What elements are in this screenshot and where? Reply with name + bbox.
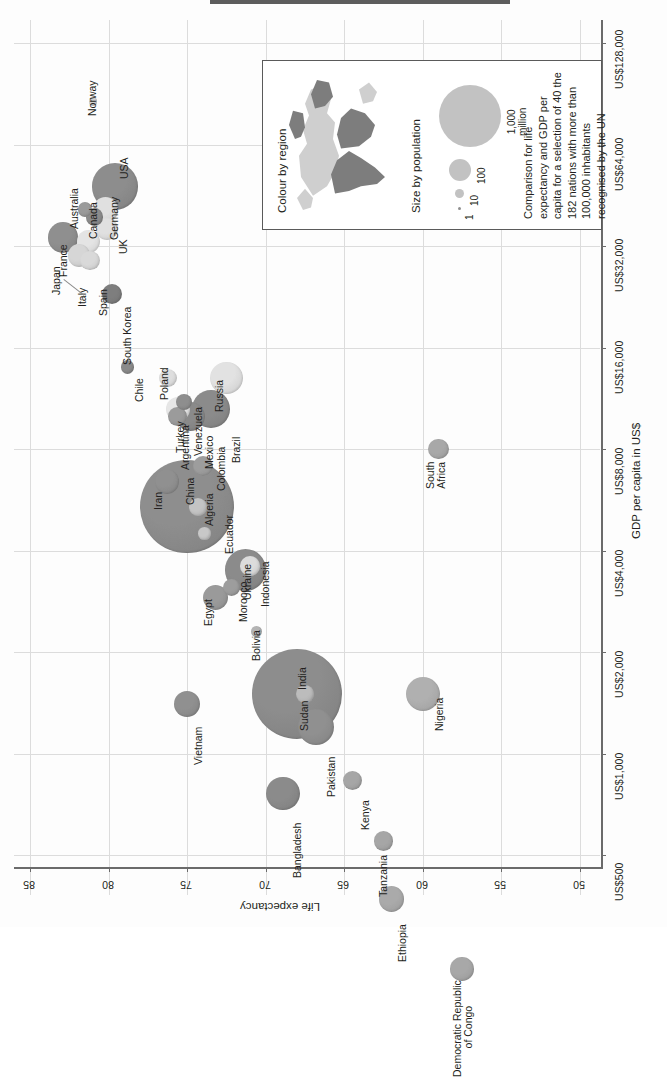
gridline-horizontal [14, 246, 600, 247]
x-tick-mark [109, 867, 110, 872]
bubble-label: Ecuador [224, 514, 236, 553]
legend-caption: Comparison for life expectancy and GDP p… [521, 72, 608, 219]
gridline-vertical [30, 20, 31, 895]
y-tick-mark [601, 754, 606, 755]
legend-bubble-10 [455, 189, 464, 198]
bubble-label: Algeria [204, 493, 216, 526]
x-tick-label: 65 [337, 879, 349, 891]
bubble[interactable] [155, 469, 180, 494]
legend-size-label-1: 1 [464, 214, 475, 220]
bubble-label: Germany [109, 197, 121, 240]
bubble[interactable] [198, 527, 211, 540]
bubble[interactable] [174, 691, 200, 717]
bubble-label: Australia [69, 188, 81, 229]
bubble-label: Kenya [360, 801, 372, 831]
bubble[interactable] [374, 831, 394, 851]
x-tick-label: 75 [180, 879, 192, 891]
x-tick-label: 60 [416, 879, 428, 891]
x-tick-label: 70 [259, 879, 271, 891]
bubble-label: South Korea [122, 306, 134, 364]
y-tick-mark [601, 855, 606, 856]
bubble[interactable] [80, 251, 100, 271]
x-tick-mark [266, 867, 267, 872]
bubble-label: Indonesia [260, 561, 272, 607]
bubble[interactable] [343, 771, 362, 790]
bubble-label: France [58, 244, 70, 277]
x-tick-mark [344, 867, 345, 872]
gridline-horizontal [14, 348, 600, 349]
bubble-label: USA [119, 157, 131, 179]
x-tick-label: 85 [23, 879, 35, 891]
legend-size-title: Size by population [411, 119, 422, 213]
bubble-label: Argentina [180, 425, 192, 470]
x-tick-label: 80 [102, 879, 114, 891]
y-tick-mark [601, 652, 606, 653]
bubble-label: Democratic Republic of Congo [452, 980, 474, 1077]
y-tick-mark [601, 43, 606, 44]
bubble-label: Egypt [203, 599, 215, 626]
x-tick-mark [187, 867, 188, 872]
bubble-label: UK [118, 239, 130, 254]
gridline-horizontal [14, 754, 600, 755]
x-axis-title: Life expectancy [240, 901, 320, 913]
legend-panel: Colour by region Size by population 1,00… [262, 60, 602, 230]
bubble-label: Pakistan [326, 757, 338, 797]
bubble-label: Bangladesh [292, 823, 304, 878]
legend-bubble-1 [458, 207, 461, 210]
x-tick-mark [423, 867, 424, 872]
bubble-label: Nigeria [434, 698, 446, 731]
y-tick-label: US$64,000 [613, 138, 625, 191]
y-tick-label: US$32,000 [613, 239, 625, 292]
bubble-label: South Africa [425, 462, 447, 489]
bubble-label: Norway [87, 80, 99, 116]
gridline-vertical [109, 20, 110, 895]
y-tick-label: US$8,000 [613, 447, 625, 495]
legend-bubble-100 [449, 159, 471, 181]
x-axis-line [14, 867, 601, 869]
legend-size-label-100: 100 [476, 167, 487, 184]
bubble-label: Tanzania [378, 855, 390, 897]
bubble-label: Morocco [238, 582, 250, 622]
bubble-label: Bolivia [251, 630, 263, 661]
bubble-label: Iran [153, 492, 165, 510]
y-tick-label: US$16,000 [613, 341, 625, 394]
gridline-horizontal [14, 43, 600, 44]
bubble[interactable] [428, 439, 449, 460]
y-tick-label: US$4,000 [613, 549, 625, 597]
bubble-label: Poland [159, 367, 171, 400]
y-axis-title: GDP per capita in US$ [630, 423, 642, 539]
legend-colour-title: Colour by region [277, 129, 288, 213]
y-tick-mark [601, 348, 606, 349]
bubble[interactable] [266, 777, 299, 810]
bubble-label: Colombia [216, 446, 228, 490]
bubble[interactable] [450, 957, 474, 981]
y-tick-label: US$2,000 [613, 650, 625, 698]
legend-bubble-1000 [439, 85, 501, 147]
x-tick-mark [501, 867, 502, 872]
y-tick-mark [601, 449, 606, 450]
bubble-label: Spain [98, 290, 110, 317]
bubble-label: Brazil [231, 437, 243, 463]
gridline-horizontal [14, 449, 600, 450]
x-tick-label: 55 [494, 879, 506, 891]
y-tick-label: US$128,000 [613, 30, 625, 89]
x-tick-mark [580, 867, 581, 872]
x-tick-mark [30, 867, 31, 872]
y-tick-label: US$1,000 [613, 752, 625, 800]
bubble-label: India [297, 667, 309, 690]
legend-size-label-10: 10 [469, 195, 480, 206]
x-tick-label: 50 [573, 879, 585, 891]
bubble-label: Chile [134, 378, 146, 402]
bubble-label: Canada [88, 202, 100, 239]
y-tick-label: US$500 [613, 862, 625, 901]
bubble-label: Vietnam [193, 727, 205, 765]
bubble-label: Sudan [299, 701, 311, 731]
gridline-horizontal [14, 855, 600, 856]
bubble-label: Ethiopia [397, 924, 409, 962]
bubble-label: China [185, 477, 197, 504]
y-tick-mark [601, 246, 606, 247]
gridline-horizontal [14, 551, 600, 552]
y-tick-mark [601, 551, 606, 552]
world-map-icon [279, 75, 397, 217]
